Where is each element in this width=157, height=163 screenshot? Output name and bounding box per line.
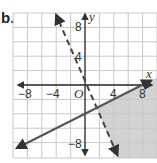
shaded-region — [97, 78, 157, 158]
x-tick-label: 8 — [139, 87, 146, 101]
x-axis-label: x — [145, 66, 152, 81]
coordinate-plane: −8 −4 4 8 8 4 −8 O x y — [0, 0, 157, 163]
x-tick-label: −4 — [46, 87, 60, 101]
x-tick-label: −8 — [18, 87, 32, 101]
origin-label: O — [74, 86, 84, 101]
x-tick-label: 4 — [110, 87, 117, 101]
y-tick-label: 8 — [75, 20, 82, 34]
y-tick-label: −8 — [68, 137, 82, 151]
y-axis-label: y — [87, 9, 95, 24]
y-tick-label: 4 — [75, 50, 82, 64]
